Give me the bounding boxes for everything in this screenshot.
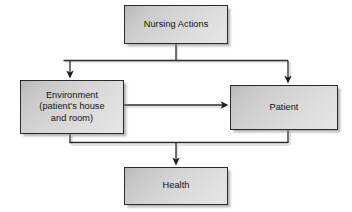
node-environment-label: Environment (patient's house and room) bbox=[36, 90, 107, 125]
node-health[interactable]: Health bbox=[124, 167, 228, 205]
node-nursing-actions[interactable]: Nursing Actions bbox=[124, 5, 228, 44]
node-environment[interactable]: Environment (patient's house and room) bbox=[20, 80, 124, 134]
node-patient-label: Patient bbox=[267, 102, 302, 114]
diagram-canvas: Nursing Actions Environment (patient's h… bbox=[0, 0, 352, 212]
node-patient[interactable]: Patient bbox=[230, 85, 338, 130]
node-health-label: Health bbox=[160, 180, 193, 192]
node-nursing-actions-label: Nursing Actions bbox=[141, 19, 212, 31]
